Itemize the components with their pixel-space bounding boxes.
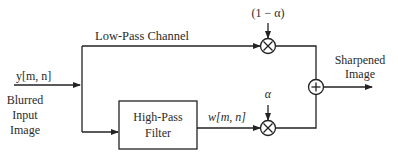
input-name-line-3: Image <box>10 123 40 137</box>
output-name-line-1: Sharpened <box>335 53 386 67</box>
high-pass-filter-block <box>119 101 197 149</box>
low-pass-channel-label: Low-Pass Channel <box>95 29 190 43</box>
output-name-line-2: Image <box>345 67 375 81</box>
sharpening-block-diagram: Low-Pass Channel (1 − α) y[m, n] Blurred… <box>0 0 398 158</box>
high-pass-multiplier <box>261 121 276 136</box>
high-pass-weight-label: α <box>265 87 272 101</box>
low-pass-weight-label: (1 − α) <box>251 6 284 20</box>
input-name-line-1: Blurred <box>7 93 44 107</box>
hpf-output-label: w[m, n] <box>208 110 246 124</box>
top-to-adder-line <box>276 46 316 80</box>
input-signal-label: y[m, n] <box>16 69 51 83</box>
adder <box>309 80 324 95</box>
hpf-label-line-2: Filter <box>145 126 171 140</box>
bottom-to-adder-line <box>276 94 316 128</box>
input-name-line-2: Input <box>12 108 38 122</box>
hpf-label-line-1: High-Pass <box>133 110 183 124</box>
low-pass-multiplier <box>261 39 276 54</box>
